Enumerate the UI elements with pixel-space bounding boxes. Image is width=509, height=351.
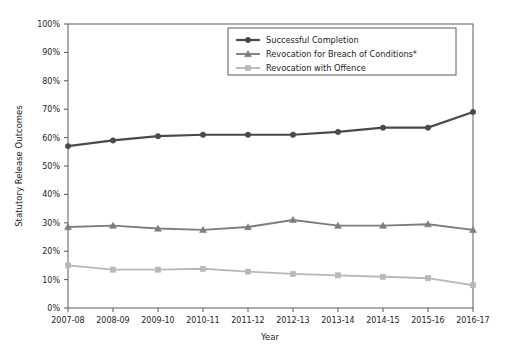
data-point-marker <box>290 271 295 276</box>
x-tick-label: 2009-10 <box>141 316 174 325</box>
data-point-marker <box>470 109 475 114</box>
data-point-marker <box>245 269 250 274</box>
x-tick-label: 2014-15 <box>366 316 399 325</box>
data-point-marker <box>335 273 340 278</box>
x-tick-label: 2008-09 <box>96 316 129 325</box>
legend-item-label: Revocation with Offence <box>266 63 366 73</box>
x-axis-title: Year <box>260 332 280 342</box>
x-tick-label: 2015-16 <box>411 316 444 325</box>
data-point-marker <box>200 132 205 137</box>
data-point-marker <box>155 133 160 138</box>
x-tick-label: 2012-13 <box>276 316 309 325</box>
x-tick-label: 2010-11 <box>186 316 219 325</box>
y-tick-label: 100% <box>37 20 60 29</box>
data-point-marker <box>245 37 250 42</box>
x-tick-label: 2013-14 <box>321 316 354 325</box>
data-point-marker <box>380 125 385 130</box>
y-tick-label: 10% <box>42 276 60 285</box>
data-point-marker <box>380 274 385 279</box>
x-tick-label: 2007-08 <box>51 316 84 325</box>
y-tick-label: 60% <box>42 134 60 143</box>
data-point-marker <box>65 263 70 268</box>
chart-canvas: 0%10%20%30%40%50%60%70%80%90%100% 2007-0… <box>0 0 509 351</box>
y-tick-label: 70% <box>42 105 60 114</box>
data-point-marker <box>110 267 115 272</box>
data-point-marker <box>245 65 250 70</box>
data-point-marker <box>65 143 70 148</box>
legend-item-label: Successful Completion <box>266 35 359 45</box>
data-point-marker <box>470 283 475 288</box>
data-point-marker <box>290 132 295 137</box>
y-tick-label: 0% <box>47 304 60 313</box>
y-tick-label: 30% <box>42 219 60 228</box>
data-point-marker <box>335 129 340 134</box>
statutory-release-outcomes-chart: 0%10%20%30%40%50%60%70%80%90%100% 2007-0… <box>0 0 509 351</box>
chart-legend: Successful CompletionRevocation for Brea… <box>228 28 456 75</box>
data-point-marker <box>245 132 250 137</box>
y-tick-label: 40% <box>42 190 60 199</box>
y-axis-title: Statutory Release Outcomes <box>14 105 24 227</box>
y-axis-tick-labels: 0%10%20%30%40%50%60%70%80%90%100% <box>37 20 60 313</box>
y-tick-label: 20% <box>42 247 60 256</box>
data-point-marker <box>200 266 205 271</box>
x-tick-label: 2011-12 <box>231 316 264 325</box>
y-tick-label: 80% <box>42 77 60 86</box>
x-axis-tick-labels: 2007-082008-092009-102010-112011-122012-… <box>51 316 489 325</box>
legend-item-label: Revocation for Breach of Conditions* <box>266 49 417 59</box>
data-point-marker <box>425 276 430 281</box>
data-point-marker <box>110 138 115 143</box>
x-axis-ticks <box>68 308 473 312</box>
x-tick-label: 2016-17 <box>456 316 489 325</box>
y-tick-label: 90% <box>42 48 60 57</box>
data-point-marker <box>425 125 430 130</box>
data-point-marker <box>155 267 160 272</box>
y-tick-label: 50% <box>42 162 60 171</box>
